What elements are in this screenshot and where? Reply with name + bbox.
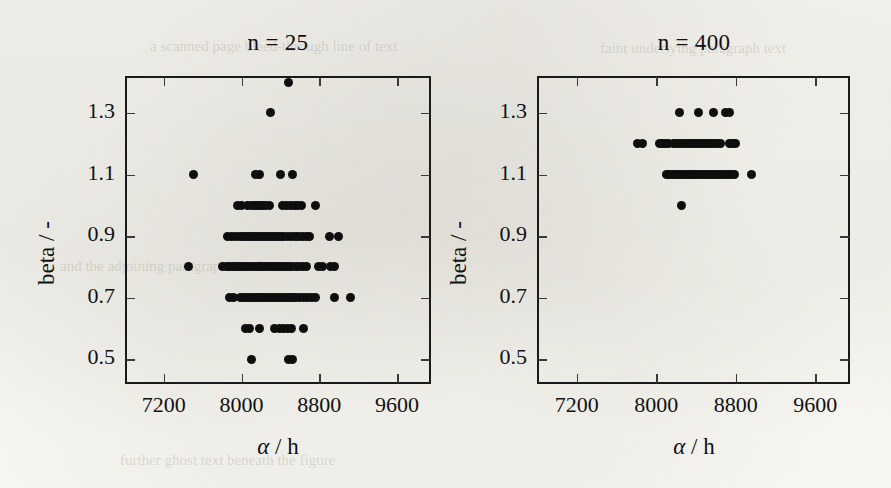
data-point (694, 108, 703, 117)
data-point (716, 139, 725, 148)
data-point (677, 201, 686, 210)
data-point (638, 139, 647, 148)
data-point (725, 108, 734, 117)
scatter-figure: a scanned page bleed-through line of tex… (0, 0, 891, 488)
data-point (675, 108, 684, 117)
data-point (747, 170, 756, 179)
data-point (709, 108, 718, 117)
data-point (731, 139, 740, 148)
data-point-layer (0, 0, 891, 488)
data-point (730, 170, 739, 179)
scatter-panel-right: n = 40072008000880096000.50.70.91.11.3α … (0, 0, 891, 488)
